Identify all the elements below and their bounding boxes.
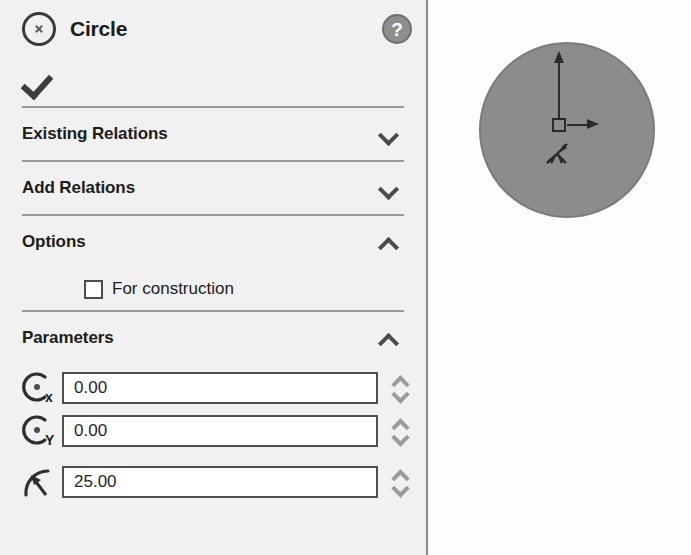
center-y-stepper[interactable] — [390, 414, 412, 448]
parameter-row-center-x: x 0.00 — [0, 368, 426, 407]
panel-header: Circle ? — [0, 0, 426, 58]
radius-input[interactable]: 25.00 — [62, 466, 378, 498]
help-icon[interactable]: ? — [382, 14, 412, 44]
ok-button-row — [0, 58, 426, 106]
center-y-input[interactable]: 0.00 — [62, 415, 378, 447]
section-header-existing-relations[interactable]: Existing Relations — [0, 108, 426, 160]
parameter-row-center-y: Y 0.00 — [0, 411, 426, 450]
center-x-input[interactable]: 0.00 — [62, 372, 378, 404]
center-x-icon: x — [18, 371, 62, 405]
property-manager-panel: Circle ? Existing Relations Add Relation… — [0, 0, 428, 555]
origin-marker — [559, 125, 560, 126]
origin-square-icon[interactable] — [552, 118, 566, 132]
svg-text:x: x — [45, 389, 53, 405]
property-manager-window: Circle ? Existing Relations Add Relation… — [0, 0, 691, 555]
radius-stepper[interactable] — [390, 465, 412, 499]
svg-text:Y: Y — [45, 432, 55, 448]
view-triad-icon — [543, 141, 571, 167]
for-construction-checkbox[interactable] — [84, 280, 103, 299]
parameter-row-radius: 25.00 — [0, 462, 426, 501]
center-x-stepper[interactable] — [390, 371, 412, 405]
section-title-options: Options — [22, 232, 86, 252]
graphics-area[interactable] — [428, 0, 691, 555]
parameters-list: x 0.00 Y 0.00 — [0, 364, 426, 501]
section-header-parameters[interactable]: Parameters — [0, 312, 426, 364]
center-y-icon: Y — [18, 414, 62, 448]
chevron-up-icon-parameters[interactable] — [378, 331, 400, 345]
section-header-add-relations[interactable]: Add Relations — [0, 162, 426, 214]
section-header-options[interactable]: Options — [0, 216, 426, 268]
x-axis-arrow-icon — [567, 124, 589, 126]
option-for-construction-row[interactable]: For construction — [0, 268, 426, 310]
y-axis-arrow-icon — [558, 61, 560, 119]
section-title-existing-relations: Existing Relations — [22, 124, 168, 144]
for-construction-label: For construction — [112, 279, 234, 299]
section-title-add-relations: Add Relations — [22, 178, 135, 198]
chevron-down-icon-existing-relations[interactable] — [378, 127, 400, 141]
page-title: Circle — [70, 17, 127, 41]
circle-icon — [22, 12, 56, 46]
sketch-circle-entity[interactable] — [479, 42, 655, 218]
section-title-parameters: Parameters — [22, 328, 114, 348]
chevron-down-icon-add-relations[interactable] — [378, 181, 400, 195]
radius-icon — [18, 465, 62, 499]
ok-check-icon[interactable] — [24, 68, 58, 96]
chevron-up-icon-options[interactable] — [378, 235, 400, 249]
